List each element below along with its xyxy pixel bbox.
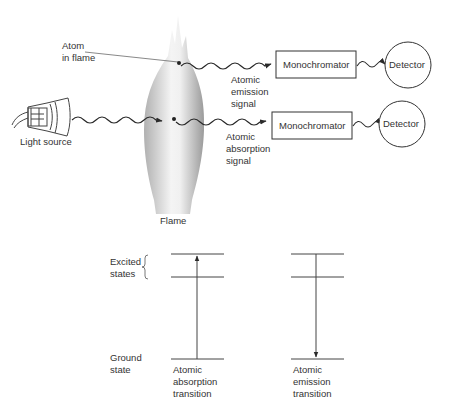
light-source-label: Light source: [20, 136, 72, 148]
atom-pointer-line: [85, 52, 178, 62]
flame-icon: [144, 16, 204, 214]
absorption-energy-levels: [171, 254, 224, 359]
emission-energy-levels: [291, 254, 344, 359]
ground-state-label: Ground state: [110, 352, 142, 376]
atom-dot-icon: [172, 117, 176, 121]
excited-states-brace: [142, 255, 148, 279]
emission-wave: [181, 63, 271, 69]
emission-signal-label: Atomic emission signal: [231, 74, 269, 110]
detector-bottom-label: Detector: [383, 118, 419, 130]
detector-top-label: Detector: [389, 59, 425, 71]
monochromator-top-label: Monochromator: [283, 59, 350, 71]
atom-dot-icon: [177, 61, 181, 65]
emission-transition-label: Atomic emission transition: [293, 364, 332, 400]
flame-label: Flame: [160, 215, 186, 227]
lamp-bulb-icon: [12, 98, 70, 136]
monochromator-bottom-label: Monochromator: [279, 120, 346, 132]
absorption-transition-label: Atomic absorption transition: [173, 364, 217, 400]
monochromator-to-detector-top-wave: [357, 61, 385, 67]
monochromator-to-detector-bottom-wave: [353, 121, 381, 127]
absorption-signal-label: Atomic absorption signal: [226, 131, 270, 167]
excited-states-label: Excited states: [110, 256, 141, 280]
atom-in-flame-label: Atom in flame: [62, 40, 95, 64]
